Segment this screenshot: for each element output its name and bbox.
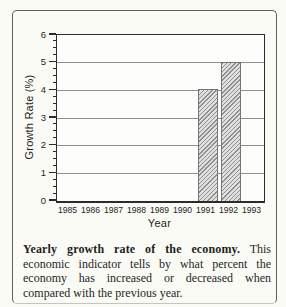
x-axis-title: Year — [56, 217, 263, 230]
y-tick-5 — [49, 61, 56, 62]
y-tick-label-5: 5 — [31, 56, 46, 67]
y-tick-label-1: 1 — [31, 167, 46, 178]
y-tick-label-4: 4 — [31, 84, 46, 95]
y-tick-3 — [49, 116, 56, 117]
x-tick-label-1987: 1987 — [102, 204, 125, 216]
figure-frame: Growth Rate (%) 0123456 1985198619871988… — [12, 10, 277, 304]
x-tick-label-1990: 1990 — [171, 204, 194, 216]
y-tick-0 — [49, 199, 56, 200]
x-tick-label-1986: 1986 — [79, 204, 102, 216]
x-tick-label-1993: 1993 — [240, 204, 263, 216]
y-tick-label-3: 3 — [31, 112, 46, 123]
page: { "figure": { "caption_lead": "Yearly gr… — [0, 0, 286, 307]
y-tick-1 — [49, 172, 56, 173]
bar-1991 — [198, 89, 218, 201]
x-tick-label-1989: 1989 — [148, 204, 171, 216]
bar-1992 — [221, 62, 241, 201]
x-axis-labels: 198519861987198819891990199119921993 — [56, 204, 263, 216]
y-tick-2 — [49, 144, 56, 145]
plot-area — [56, 34, 265, 203]
y-tick-4 — [49, 89, 56, 90]
x-tick-label-1991: 1991 — [194, 204, 217, 216]
y-tick-label-0: 0 — [31, 195, 46, 206]
x-tick-label-1985: 1985 — [56, 204, 79, 216]
y-tick-label-2: 2 — [31, 139, 46, 150]
x-tick-label-1988: 1988 — [125, 204, 148, 216]
caption-lead: Yearly growth rate of the economy. — [23, 242, 240, 256]
y-tick-6 — [49, 33, 56, 34]
x-tick-label-1992: 1992 — [217, 204, 240, 216]
y-tick-label-6: 6 — [31, 29, 46, 40]
figure-caption: Yearly growth rate of the economy. This … — [23, 242, 271, 300]
